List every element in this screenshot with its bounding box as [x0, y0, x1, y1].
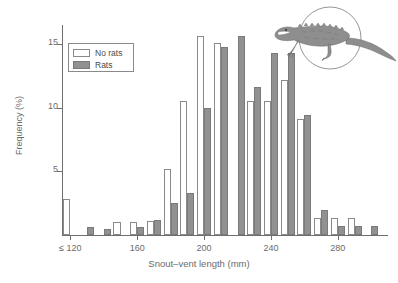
bar-no-rats-230 — [247, 101, 254, 235]
bar-rats-200 — [204, 108, 211, 235]
bar-rats-190 — [187, 193, 194, 235]
x-tick-label-120: ≤ 120 — [59, 243, 81, 253]
bar-no-rats-180 — [164, 169, 171, 235]
y-tick-label: 15 — [48, 37, 58, 47]
bar-no-rats-240 — [264, 101, 271, 235]
bar-no-rats-250 — [281, 80, 288, 235]
x-tick-label-240: 240 — [263, 243, 278, 253]
legend-label-no-rats: No rats — [95, 48, 122, 58]
y-tick-label: 5 — [53, 164, 58, 174]
figure-container: 51015 ≤ 120160200240280 Frequency (%) Sn… — [0, 0, 398, 283]
x-tick-mark — [271, 235, 272, 240]
bar-rats-300 — [371, 226, 378, 235]
bar-rats-130 — [87, 227, 94, 235]
bar-rats-170 — [154, 220, 161, 235]
x-tick-label-280: 280 — [330, 243, 345, 253]
x-tick-mark — [338, 235, 339, 240]
bar-rats-260 — [304, 115, 311, 235]
legend-item-no-rats: No rats — [73, 47, 129, 58]
bar-rats-250 — [288, 53, 295, 235]
bar-rats-160 — [137, 227, 144, 235]
legend-label-rats: Rats — [95, 60, 112, 70]
bar-rats-220 — [238, 36, 245, 235]
legend-item-rats: Rats — [73, 59, 129, 70]
bar-no-rats-210 — [214, 43, 221, 235]
y-axis-title: Frequency (%) — [14, 96, 24, 155]
bar-no-rats-120 — [63, 199, 70, 235]
bar-rats-290 — [355, 226, 362, 235]
bar-rats-270 — [321, 210, 328, 235]
chart-legend: No rats Rats — [68, 43, 134, 72]
x-axis-title: Snout–vent length (mm) — [0, 258, 398, 269]
bar-rats-280 — [338, 226, 345, 235]
x-tick-mark — [204, 235, 205, 240]
bar-no-rats-150 — [113, 222, 120, 235]
bar-no-rats-260 — [297, 119, 304, 235]
bar-no-rats-170 — [147, 221, 154, 235]
bar-no-rats-160 — [130, 222, 137, 235]
bar-rats-240 — [271, 53, 278, 235]
x-tick-mark — [137, 235, 138, 240]
bar-no-rats-200 — [197, 36, 204, 235]
legend-swatch-rats — [73, 61, 90, 69]
bar-no-rats-280 — [331, 218, 338, 235]
bar-rats-180 — [171, 203, 178, 235]
x-tick-label-160: 160 — [130, 243, 145, 253]
bar-no-rats-190 — [180, 101, 187, 235]
x-tick-mark — [70, 235, 71, 240]
bar-rats-140 — [104, 229, 111, 235]
lizard-body — [275, 23, 396, 61]
x-axis-line — [62, 235, 388, 236]
legend-swatch-no-rats — [73, 49, 90, 57]
bar-no-rats-290 — [348, 218, 355, 235]
y-tick-label: 10 — [48, 101, 58, 111]
bar-rats-210 — [221, 47, 228, 235]
bar-rats-230 — [254, 87, 261, 235]
lizard-illustration — [268, 2, 398, 80]
x-tick-label-200: 200 — [197, 243, 212, 253]
bar-no-rats-270 — [314, 218, 321, 235]
